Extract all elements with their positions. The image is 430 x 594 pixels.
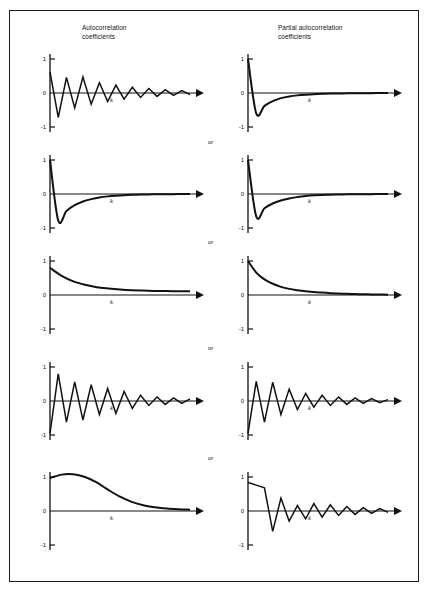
x-axis-arrow-icon	[196, 89, 204, 97]
svg-text:k: k	[110, 404, 113, 411]
svg-text:k: k	[110, 514, 113, 521]
svg-text:1: 1	[43, 157, 47, 163]
svg-text:1: 1	[43, 364, 47, 370]
svg-text:1: 1	[43, 56, 47, 62]
chart-row5-pacf: 10-1k	[226, 463, 422, 559]
chart-row2-acf: 10-1k	[28, 146, 224, 242]
svg-text:-1: -1	[41, 542, 47, 548]
chart-row3-acf: 10-1k	[28, 247, 224, 343]
svg-text:0: 0	[241, 292, 245, 298]
svg-text:k: k	[308, 197, 311, 204]
svg-text:0: 0	[43, 292, 47, 298]
svg-text:-1: -1	[41, 326, 47, 332]
series-line	[248, 160, 388, 219]
svg-text:1: 1	[241, 474, 245, 480]
svg-text:-1: -1	[239, 225, 245, 231]
x-axis-arrow-icon	[394, 89, 402, 97]
figure-frame: Autocorrelation coefficients Partial aut…	[9, 10, 419, 582]
series-line	[248, 261, 388, 295]
svg-text:0: 0	[241, 90, 245, 96]
series-line	[50, 374, 190, 434]
svg-text:0: 0	[43, 191, 47, 197]
svg-text:-1: -1	[239, 542, 245, 548]
x-axis-arrow-icon	[196, 190, 204, 198]
svg-text:0: 0	[43, 508, 47, 514]
x-axis-arrow-icon	[196, 397, 204, 405]
series-line	[248, 381, 388, 433]
series-line	[50, 160, 190, 223]
series-line	[248, 482, 388, 531]
svg-text:0: 0	[241, 508, 245, 514]
x-axis-arrow-icon	[394, 190, 402, 198]
svg-text:-1: -1	[41, 124, 47, 130]
x-axis-arrow-icon	[196, 507, 204, 515]
svg-text:1: 1	[241, 157, 245, 163]
svg-text:-1: -1	[41, 432, 47, 438]
svg-text:k: k	[110, 298, 113, 305]
chart-row1-acf: 10-1k	[28, 45, 224, 141]
svg-text:k: k	[110, 96, 113, 103]
x-axis-arrow-icon	[394, 397, 402, 405]
svg-text:1: 1	[43, 474, 47, 480]
svg-text:k: k	[308, 404, 311, 411]
x-axis-arrow-icon	[394, 291, 402, 299]
svg-text:0: 0	[43, 90, 47, 96]
svg-text:k: k	[110, 197, 113, 204]
svg-text:-1: -1	[239, 326, 245, 332]
svg-text:k: k	[308, 96, 311, 103]
svg-text:0: 0	[241, 191, 245, 197]
svg-text:0: 0	[43, 398, 47, 404]
series-line	[248, 59, 388, 116]
x-axis-arrow-icon	[196, 291, 204, 299]
column-header-partial-autocorrelation: Partial autocorrelation coefficients	[278, 23, 342, 41]
series-line	[50, 268, 190, 291]
svg-text:1: 1	[241, 364, 245, 370]
chart-row4-acf: 10-1k	[28, 353, 224, 449]
svg-text:k: k	[308, 298, 311, 305]
x-axis-arrow-icon	[394, 507, 402, 515]
chart-row4-pacf: 10-1k	[226, 353, 422, 449]
svg-text:1: 1	[241, 258, 245, 264]
svg-text:0: 0	[241, 398, 245, 404]
series-line	[50, 474, 190, 510]
svg-text:1: 1	[43, 258, 47, 264]
svg-text:1: 1	[241, 56, 245, 62]
chart-row5-acf: 10-1k	[28, 463, 224, 559]
svg-text:-1: -1	[41, 225, 47, 231]
chart-row2-pacf: 10-1k	[226, 146, 422, 242]
chart-row1-pacf: 10-1k	[226, 45, 422, 141]
chart-row3-pacf: 10-1k	[226, 247, 422, 343]
separator-or-3: or	[208, 345, 213, 351]
column-header-autocorrelation: Autocorrelation coefficients	[82, 23, 126, 41]
series-line	[50, 72, 190, 118]
separator-or-4: or	[208, 455, 213, 461]
svg-text:-1: -1	[239, 432, 245, 438]
svg-text:k: k	[308, 514, 311, 521]
svg-text:-1: -1	[239, 124, 245, 130]
